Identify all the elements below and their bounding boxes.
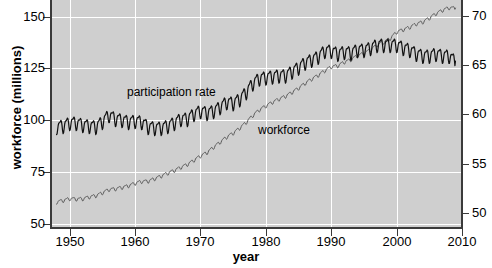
- y-axis-title: workforce (millions): [9, 8, 24, 208]
- y-axis-right-tick: [462, 16, 469, 17]
- participation-rate-label: participation rate: [127, 85, 216, 99]
- axis-line-bottom: [50, 227, 463, 229]
- y-axis-left-tick-label: 50: [31, 217, 45, 230]
- y-axis-right-tick-label: 60: [472, 107, 486, 120]
- x-axis-tick-label: 1980: [252, 235, 281, 248]
- y-axis-right-tick: [462, 65, 469, 66]
- y-axis-left-tick-label: 125: [23, 61, 45, 74]
- x-axis-tick-label: 2010: [448, 235, 477, 248]
- series-workforce: [57, 7, 456, 205]
- x-axis-tick-label: 1950: [56, 235, 85, 248]
- x-axis-tick-label: 1960: [121, 235, 150, 248]
- x-axis-tick-label: 1970: [186, 235, 215, 248]
- y-axis-right-tick-label: 55: [472, 157, 486, 170]
- y-axis-right-tick-label: 50: [472, 206, 486, 219]
- y-axis-right-tick: [462, 213, 469, 214]
- axis-line-left: [50, 0, 52, 229]
- x-axis-tick-label: 1990: [317, 235, 346, 248]
- x-axis-tick-label: 2000: [383, 235, 412, 248]
- data-series-layer: [50, 0, 462, 228]
- y-axis-right-tick-label: 65: [472, 58, 486, 71]
- series-participation-rate: [57, 39, 456, 135]
- y-axis-right-tick: [462, 114, 469, 115]
- workforce-label: workforce: [258, 123, 310, 137]
- y-axis-left-tick-label: 100: [23, 113, 45, 126]
- chart-figure: 5075100125150505560657019501960197019801…: [0, 0, 492, 268]
- y-axis-left-tick-label: 150: [23, 10, 45, 23]
- y-axis-left-tick-label: 75: [31, 165, 45, 178]
- x-axis-title: year: [0, 249, 492, 264]
- y-axis-right-tick-label: 70: [472, 9, 486, 22]
- y-axis-right-tick: [462, 164, 469, 165]
